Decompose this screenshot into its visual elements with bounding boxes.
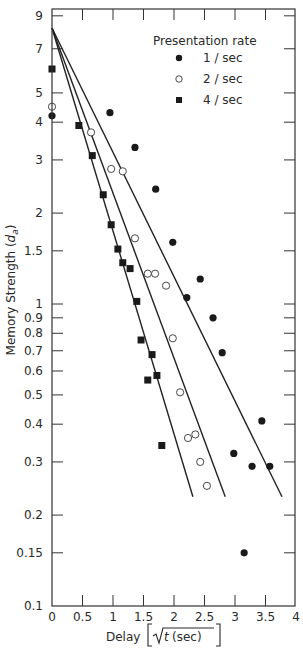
point-1-per-sec xyxy=(248,463,255,470)
axis-ticks xyxy=(52,9,295,606)
y-tick-label: 7 xyxy=(35,42,43,56)
point-4-per-sec xyxy=(149,351,156,358)
point-2-per-sec xyxy=(162,282,169,289)
x-axis-title: Delay t (sec) xyxy=(106,624,220,646)
point-4-per-sec xyxy=(108,221,115,228)
y-tick-label: 9 xyxy=(35,9,43,23)
y-tick-label: 0.2 xyxy=(24,508,43,522)
point-2-per-sec xyxy=(169,335,176,342)
svg-text:(sec): (sec) xyxy=(172,630,202,644)
svg-text:t: t xyxy=(164,630,170,644)
point-1-per-sec xyxy=(209,314,216,321)
point-2-per-sec xyxy=(197,458,204,465)
y-tick-label: 0.5 xyxy=(24,388,43,402)
point-4-per-sec xyxy=(153,372,160,379)
y-axis-title: Memory Strength (da) xyxy=(4,225,20,356)
y-tick-label: 0.6 xyxy=(24,364,43,378)
point-2-per-sec xyxy=(184,434,191,441)
y-tick-label: 1.5 xyxy=(24,244,43,258)
point-2-per-sec xyxy=(87,129,94,136)
point-1-per-sec xyxy=(241,549,248,556)
y-tick-label: 0.9 xyxy=(24,311,43,325)
point-2-per-sec xyxy=(108,165,115,172)
y-tick-label: 2 xyxy=(35,206,43,220)
y-tick-label: 0.7 xyxy=(24,344,43,358)
y-tick-labels: 9754321.510.90.80.70.60.50.40.30.20.150.… xyxy=(16,9,43,613)
y-tick-label: 0.8 xyxy=(24,326,43,340)
point-4-per-sec xyxy=(100,191,107,198)
point-4-per-sec xyxy=(158,442,165,449)
y-tick-label: 0.1 xyxy=(24,599,43,613)
point-1-per-sec xyxy=(230,450,237,457)
point-1-per-sec xyxy=(197,275,204,282)
x-tick-label: 2.5 xyxy=(195,610,214,624)
point-2-per-sec xyxy=(144,270,151,277)
x-tick-label: 4 xyxy=(292,610,300,624)
legend: Presentation rate 1 / sec 2 / sec 4 / se… xyxy=(153,34,257,107)
y-tick-label: 0.15 xyxy=(16,546,43,560)
point-1-per-sec xyxy=(152,186,159,193)
fit-line xyxy=(52,28,282,497)
legend-title: Presentation rate xyxy=(153,34,257,48)
point-1-per-sec xyxy=(131,144,138,151)
legend-label-2: 2 / sec xyxy=(203,72,243,86)
point-2-per-sec xyxy=(119,168,126,175)
x-tick-labels: 00.511.522.533.54 xyxy=(48,610,300,624)
x-tick-label: 0.5 xyxy=(73,610,92,624)
x-tick-label: 3.5 xyxy=(256,610,275,624)
y-tick-label: 3 xyxy=(35,153,43,167)
svg-text:Delay: Delay xyxy=(106,630,140,644)
point-4-per-sec xyxy=(75,122,82,129)
bracket-right-icon xyxy=(216,624,220,646)
x-tick-label: 3 xyxy=(231,610,239,624)
point-1-per-sec xyxy=(219,349,226,356)
x-tick-label: 2 xyxy=(170,610,178,624)
bracket-left-icon xyxy=(148,624,152,646)
y-tick-label: 1 xyxy=(35,297,43,311)
point-1-per-sec xyxy=(266,463,273,470)
x-tick-label: 0 xyxy=(48,610,56,624)
legend-label-3: 4 / sec xyxy=(203,93,243,107)
legend-label-1: 1 / sec xyxy=(203,51,243,65)
point-4-per-sec xyxy=(133,298,140,305)
point-4-per-sec xyxy=(144,377,151,384)
x-tick-label: 1.5 xyxy=(134,610,153,624)
point-4-per-sec xyxy=(127,265,134,272)
y-tick-label: 0.4 xyxy=(24,417,43,431)
point-2-per-sec xyxy=(151,270,158,277)
y-tick-label: 5 xyxy=(35,86,43,100)
point-4-per-sec xyxy=(138,336,145,343)
point-2-per-sec xyxy=(192,431,199,438)
legend-marker-open-circle-icon xyxy=(176,76,182,82)
fit-line xyxy=(52,28,225,497)
point-1-per-sec xyxy=(183,294,190,301)
point-4-per-sec xyxy=(119,259,126,266)
point-4-per-sec xyxy=(114,246,121,253)
point-1-per-sec xyxy=(106,109,113,116)
point-2-per-sec xyxy=(177,389,184,396)
y-tick-label: 0.3 xyxy=(24,455,43,469)
point-4-per-sec xyxy=(89,152,96,159)
point-1-per-sec xyxy=(258,417,265,424)
x-tick-label: 1 xyxy=(109,610,117,624)
legend-marker-filled-square-icon xyxy=(176,97,182,103)
fit-lines xyxy=(52,28,282,497)
legend-marker-filled-circle-icon xyxy=(176,55,182,61)
y-tick-label: 4 xyxy=(35,115,43,129)
memory-strength-chart: 9754321.510.90.80.70.60.50.40.30.20.150.… xyxy=(0,0,303,648)
plot-frame xyxy=(52,9,295,606)
point-1-per-sec xyxy=(169,239,176,246)
data-points xyxy=(48,65,273,556)
point-2-per-sec xyxy=(131,235,138,242)
point-2-per-sec xyxy=(203,482,210,489)
